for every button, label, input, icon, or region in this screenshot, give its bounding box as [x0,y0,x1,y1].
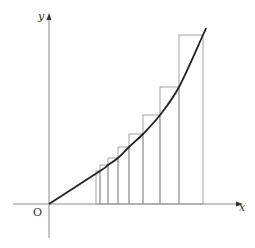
origin-label: O [33,206,42,219]
y-axis-arrow-icon [47,13,52,20]
function-curve [49,28,206,204]
y-axis-label: y [37,10,45,23]
upper-rectangles [96,35,203,204]
rectangle [160,87,179,204]
rectangle [143,115,160,204]
x-axis-label: x [239,201,246,214]
riemann-diagram: y x O [0,0,255,248]
rectangle [96,171,100,204]
